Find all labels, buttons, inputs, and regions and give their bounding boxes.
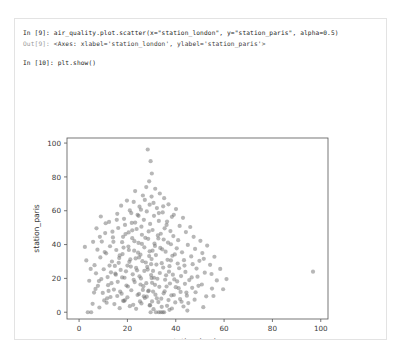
scatter-point bbox=[87, 279, 91, 283]
scatter-point bbox=[179, 300, 183, 304]
scatter-point bbox=[116, 226, 120, 230]
scatter-point bbox=[132, 249, 136, 253]
scatter-point bbox=[140, 259, 144, 263]
scatter-point bbox=[144, 281, 148, 285]
scatter-point bbox=[157, 285, 161, 289]
scatter-point bbox=[198, 239, 202, 243]
scatter-point bbox=[162, 237, 166, 241]
scatter-point bbox=[108, 244, 112, 248]
scatter-point bbox=[208, 263, 212, 267]
scatter-point bbox=[113, 264, 117, 268]
scatter-point bbox=[175, 246, 179, 250]
scatter-point bbox=[134, 266, 138, 270]
scatter-point bbox=[139, 225, 143, 229]
scatter-point bbox=[154, 262, 158, 266]
scatter-point bbox=[133, 189, 137, 193]
scatter-point bbox=[311, 270, 315, 274]
scatter-point bbox=[91, 240, 95, 244]
scatter-point bbox=[112, 302, 116, 306]
scatter-point bbox=[100, 239, 104, 243]
scatter-point bbox=[172, 213, 176, 217]
scatter-point bbox=[119, 204, 123, 208]
scatter-point bbox=[129, 288, 133, 292]
scatter-point bbox=[190, 286, 194, 290]
scatter-point bbox=[145, 209, 149, 213]
scatter-call-source: air_quality.plot.scatter(x="station_lond… bbox=[54, 29, 339, 36]
scatter-point bbox=[136, 251, 140, 255]
notebook-show-line[interactable]: In [10]: plt.show() bbox=[23, 58, 386, 69]
scatter-point bbox=[162, 196, 166, 200]
scatter-point bbox=[155, 206, 159, 210]
axes-repr-text: <Axes: xlabel='station_london', ylabel='… bbox=[54, 40, 266, 47]
scatter-point bbox=[185, 308, 189, 312]
scatter-point bbox=[190, 275, 194, 279]
scatter-point bbox=[114, 248, 118, 252]
scatter-point bbox=[106, 275, 110, 279]
scatter-point bbox=[178, 224, 182, 228]
scatter-point bbox=[148, 222, 152, 226]
matplotlib-figure: 020406080100020406080100 station_london … bbox=[15, 95, 387, 340]
scatter-point bbox=[122, 299, 126, 303]
scatter-point bbox=[104, 221, 108, 225]
scatter-point bbox=[215, 278, 219, 282]
scatter-point bbox=[157, 211, 161, 215]
scatter-point bbox=[146, 289, 150, 293]
scatter-point bbox=[142, 294, 146, 298]
scatter-point bbox=[211, 294, 215, 298]
scatter-point bbox=[156, 236, 160, 240]
scatter-point bbox=[95, 248, 99, 252]
scatter-point bbox=[182, 258, 186, 262]
y-tick-label: 40 bbox=[52, 240, 62, 249]
scatter-point bbox=[125, 263, 129, 267]
scatter-point bbox=[170, 306, 174, 310]
scatter-point bbox=[125, 198, 129, 202]
x-tick-label: 40 bbox=[171, 324, 181, 333]
scatter-point bbox=[99, 214, 103, 218]
scatter-point bbox=[143, 198, 147, 202]
scatter-point bbox=[167, 264, 171, 268]
scatter-point bbox=[212, 255, 216, 259]
scatter-point bbox=[164, 273, 168, 277]
scatter-point bbox=[174, 207, 178, 211]
scatter-point bbox=[142, 218, 146, 222]
scatter-point bbox=[147, 179, 151, 183]
scatter-point bbox=[180, 250, 184, 254]
y-tick-label: 60 bbox=[52, 206, 62, 215]
scatter-point bbox=[196, 284, 200, 288]
scatter-point bbox=[202, 257, 206, 261]
scatter-point bbox=[132, 278, 136, 282]
notebook-input-line[interactable]: In [9]: air_quality.plot.scatter(x="stat… bbox=[23, 28, 386, 39]
scatter-plot-svg: 020406080100020406080100 station_london … bbox=[15, 95, 387, 340]
scatter-point bbox=[107, 263, 111, 267]
scatter-point bbox=[128, 257, 132, 261]
scatter-point bbox=[166, 298, 170, 302]
scatter-point bbox=[203, 271, 207, 275]
scatter-point bbox=[191, 262, 195, 266]
scatter-point bbox=[117, 261, 121, 265]
scatter-point bbox=[83, 245, 87, 249]
scatter-point bbox=[162, 291, 166, 295]
scatter-point bbox=[181, 304, 185, 308]
scatter-point bbox=[221, 287, 225, 291]
scatter-point bbox=[150, 228, 154, 232]
scatter-point bbox=[176, 238, 180, 242]
y-tick-label: 0 bbox=[56, 308, 61, 317]
scatter-point bbox=[98, 235, 102, 239]
scatter-point bbox=[153, 244, 157, 248]
scatter-point bbox=[172, 293, 176, 297]
scatter-point bbox=[94, 271, 98, 275]
scatter-point bbox=[161, 204, 165, 208]
scatter-point bbox=[184, 291, 188, 295]
scatter-point bbox=[89, 267, 93, 271]
scatter-point bbox=[149, 310, 153, 314]
code-area[interactable]: In [9]: air_quality.plot.scatter(x="stat… bbox=[15, 19, 386, 69]
scatter-point bbox=[175, 279, 179, 283]
scatter-point bbox=[188, 225, 192, 229]
scatter-point bbox=[150, 299, 154, 303]
scatter-point bbox=[137, 255, 141, 259]
scatter-point bbox=[134, 307, 138, 311]
scatter-point bbox=[209, 272, 213, 276]
notebook-cell[interactable]: In [9]: air_quality.plot.scatter(x="stat… bbox=[14, 18, 387, 340]
input-prompt-label: In [9]: bbox=[23, 29, 50, 36]
scatter-point bbox=[171, 273, 175, 277]
